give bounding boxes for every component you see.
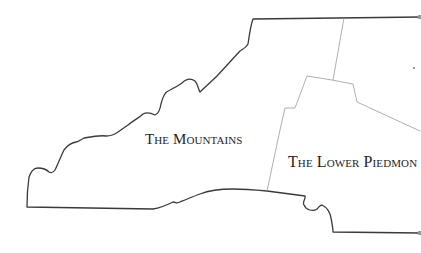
inner-border-north xyxy=(333,18,344,80)
edge-mark xyxy=(413,67,415,69)
region-map xyxy=(0,0,421,253)
inner-border-piedmont xyxy=(267,76,420,191)
region-label-mountains: The Mountains xyxy=(145,131,243,148)
region-label-lower-piedmont: The Lower Piedmon xyxy=(288,153,417,171)
outer-boundary xyxy=(27,17,421,233)
